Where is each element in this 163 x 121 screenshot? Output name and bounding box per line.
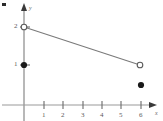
y-axis-arrowhead — [21, 3, 27, 11]
x-tick-label-4: 4 — [100, 112, 104, 119]
y-tick-label-1: 1 — [14, 61, 18, 68]
x-tick-label-3: 3 — [81, 112, 85, 119]
x-tick-label-5: 5 — [119, 112, 123, 119]
plot-area — [0, 0, 163, 121]
data-line-segment — [24, 27, 140, 65]
y-axis-ticks — [20, 27, 30, 65]
x-axis-arrowhead — [149, 102, 157, 108]
open-circle-marker-left — [21, 24, 27, 30]
x-tick-label-2: 2 — [61, 112, 65, 119]
x-tick-label-1: 1 — [42, 112, 46, 119]
y-axis-label: y — [29, 5, 32, 11]
filled-circle-marker-origin-one — [21, 62, 27, 68]
y-tick-label-2: 2 — [14, 23, 18, 30]
chart-figure: 2 1 1 2 3 4 5 6 y x — [0, 0, 163, 121]
filled-circle-marker-lower-right — [138, 82, 144, 88]
open-circle-marker-right — [137, 62, 143, 68]
x-tick-label-6: 6 — [139, 112, 143, 119]
x-axis-label: x — [155, 110, 158, 116]
